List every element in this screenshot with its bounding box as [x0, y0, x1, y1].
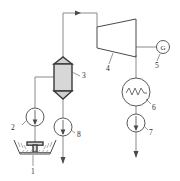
vessel-shell-icon	[54, 64, 72, 91]
diagram-canvas: 3 4 G 5 6 7	[0, 0, 180, 181]
generator-glyph: G	[160, 44, 165, 52]
component-label-5: 5	[155, 61, 159, 70]
component-label-3: 3	[82, 71, 86, 80]
steam-line-arrow-top-icon	[75, 11, 81, 16]
component-label-1: 1	[31, 167, 35, 176]
steam-turbine[interactable]: 4	[97, 19, 136, 73]
vessel-bottom-cap-icon	[54, 91, 72, 99]
pump-8[interactable]: 8	[54, 118, 81, 139]
pump-2[interactable]: 2	[11, 108, 44, 132]
vessel-top-cap-icon	[54, 57, 72, 64]
component-label-7: 7	[149, 128, 153, 137]
component-label-6: 6	[152, 103, 156, 112]
leader-line-4	[109, 53, 113, 64]
pipe-steam-to-turbine	[63, 13, 97, 58]
pipe-vessel-to-pump2	[35, 77, 55, 108]
component-label-4: 4	[106, 64, 110, 73]
leader-line-7	[144, 126, 148, 130]
leader-line-8	[71, 130, 75, 133]
process-flow-diagram: 3 4 G 5 6 7	[0, 0, 180, 181]
outlet-arrow-right-bottom-icon	[134, 151, 139, 158]
outlet-arrow-left-bottom-icon	[61, 157, 66, 164]
leader-line-3	[72, 72, 80, 76]
condenser-heat-exchanger[interactable]: 6	[122, 78, 156, 112]
turbine-body-icon	[97, 19, 136, 57]
leader-line-2	[22, 120, 27, 125]
component-label-2: 2	[11, 123, 15, 132]
generator[interactable]: G 5	[155, 41, 170, 71]
component-label-8: 8	[77, 130, 81, 139]
pump-7[interactable]: 7	[127, 114, 153, 137]
flash-separator-vessel[interactable]: 3	[54, 57, 86, 99]
leader-line-5	[157, 54, 160, 61]
basin-spray-pond[interactable]: 1	[14, 140, 56, 176]
